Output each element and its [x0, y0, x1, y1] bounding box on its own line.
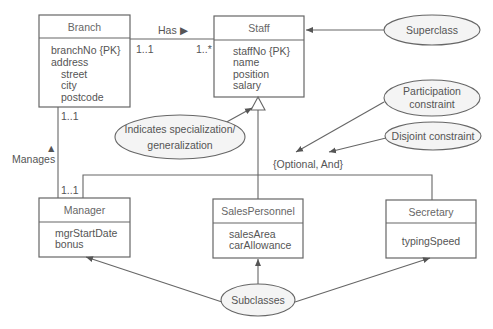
branch-attr-address: address [51, 56, 88, 68]
branch-attr-city: city [61, 79, 78, 91]
class-staff[interactable]: Staff staffNo {PK} name position salary [214, 16, 304, 97]
branch-attr-postcode: postcode [61, 91, 104, 103]
has-multiplicity-branch: 1..1 [136, 43, 154, 55]
annotation-disjoint: Disjoint constraint [329, 122, 481, 152]
class-manager-name: Manager [64, 204, 106, 216]
has-label: Has [158, 24, 177, 36]
constraint-label: {Optional, And} [273, 158, 344, 170]
manages-label: Manages [12, 153, 55, 165]
has-arrow-icon: ▶ [180, 24, 189, 36]
salespersonnel-attr-carallowance: carAllowance [229, 239, 292, 251]
manages-multiplicity-bottom: 1..1 [61, 184, 79, 196]
class-secretary[interactable]: Secretary typingSpeed [386, 200, 476, 258]
diagram-canvas: Branch branchNo {PK} address street city… [0, 0, 493, 329]
participation-label-line1: Participation [403, 85, 461, 97]
class-secretary-name: Secretary [409, 206, 455, 218]
secretary-attr-typingspeed: typingSpeed [402, 235, 461, 247]
annotation-superclass: Superclass [306, 15, 480, 45]
staff-attr-name: name [233, 56, 259, 68]
manager-attr-bonus: bonus [55, 238, 84, 250]
annotation-specialization: Indicates specialization/ generalization [115, 108, 252, 159]
class-branch[interactable]: Branch branchNo {PK} address street city… [39, 15, 130, 107]
class-staff-name: Staff [248, 22, 269, 34]
manages-multiplicity-top: 1..1 [61, 110, 79, 122]
specialization-label-line2: generalization [147, 139, 213, 151]
has-multiplicity-staff: 1..* [196, 43, 212, 55]
disjoint-label: Disjoint constraint [392, 130, 475, 142]
branch-attr-branchno: branchNo {PK} [51, 44, 121, 56]
participation-label-line2: constraint [409, 98, 455, 110]
superclass-label: Superclass [406, 24, 458, 36]
subclasses-label: Subclasses [231, 294, 285, 306]
staff-attr-salary: salary [233, 79, 262, 91]
association-has[interactable]: Has ▶ 1..1 1..* [130, 24, 214, 55]
generalization-triangle-icon [251, 97, 265, 110]
specialization-label-line1: Indicates specialization/ [125, 123, 236, 135]
class-salespersonnel[interactable]: SalesPersonnel salesArea carAllowance [213, 199, 303, 258]
class-branch-name: Branch [68, 21, 101, 33]
class-manager[interactable]: Manager mgrStartDate bonus [39, 198, 130, 257]
association-manages[interactable]: 1..1 ▲ Manages 1..1 [12, 107, 79, 198]
class-salespersonnel-name: SalesPersonnel [221, 205, 295, 217]
annotation-subclasses: Subclasses [86, 257, 430, 316]
